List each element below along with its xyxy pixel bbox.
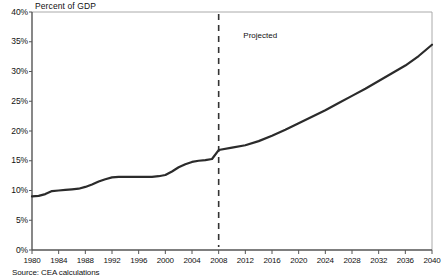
source-note: Source: CEA calculations <box>12 268 99 277</box>
chart-figure: Percent of GDP Source: CEA calculations … <box>0 0 447 280</box>
y-axis-tick-label: 35% <box>0 36 28 46</box>
y-axis-tick-label: 20% <box>0 126 28 136</box>
y-axis-tick-label: 0% <box>0 245 28 255</box>
plot-canvas <box>0 0 447 280</box>
y-axis-tick-label: 40% <box>0 7 28 17</box>
x-axis-tick-label: 2040 <box>416 256 447 265</box>
y-axis-tick-label: 25% <box>0 96 28 106</box>
data-series-line <box>32 45 432 197</box>
y-axis-tick-label: 5% <box>0 215 28 225</box>
y-axis-tick-label: 10% <box>0 185 28 195</box>
y-axis-tick-label: 30% <box>0 66 28 76</box>
y-axis-tick-label: 15% <box>0 155 28 165</box>
projected-label: Projected <box>243 31 277 40</box>
